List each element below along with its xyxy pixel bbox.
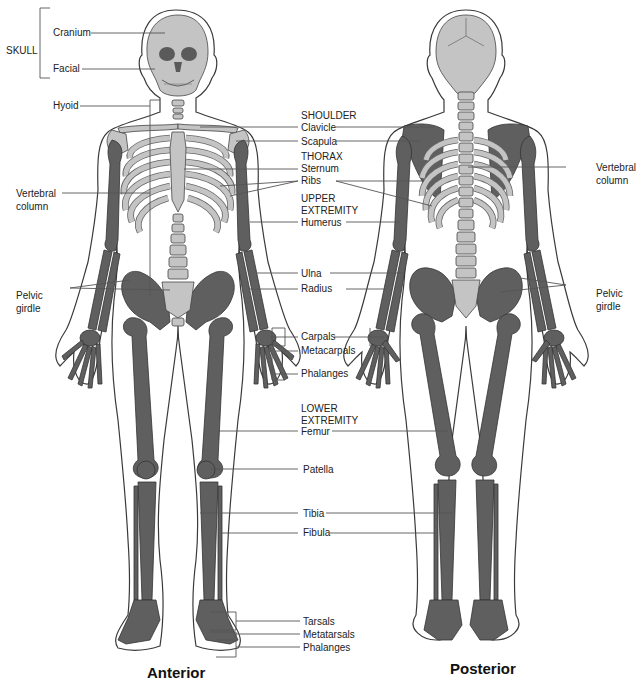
posterior-right-hand	[532, 330, 576, 388]
label-upper-extremity-line2: EXTREMITY	[301, 205, 358, 217]
posterior-right-foot	[470, 600, 508, 640]
label-fibula: Fibula	[303, 527, 330, 539]
anterior-left-tibia	[138, 482, 156, 600]
label-shoulder-group: SHOULDER	[301, 110, 357, 122]
label-upper-extremity-line1: UPPER	[301, 193, 335, 205]
posterior-vertebral-column	[456, 132, 476, 278]
label-vertebral-column-left-line2: column	[16, 201, 48, 213]
anterior-sternum	[170, 132, 186, 212]
anterior-right-foot	[196, 600, 238, 644]
posterior-right-hip-bone	[476, 268, 522, 322]
anterior-right-tibia	[200, 482, 218, 600]
label-clavicle: Clavicle	[301, 122, 336, 134]
anterior-left-hand	[62, 330, 102, 388]
label-sternum: Sternum	[301, 163, 339, 175]
anterior-right-patella	[197, 461, 215, 479]
pubic-symphysis	[172, 318, 184, 326]
label-scapula: Scapula	[301, 136, 337, 148]
posterior-left-hip-bone	[410, 268, 456, 322]
posterior-left-humerus	[393, 136, 412, 251]
posterior-left-femur	[412, 314, 460, 476]
left-orbit	[159, 47, 175, 61]
anterior-left-patella	[137, 461, 155, 479]
anterior-right-fibula	[218, 486, 222, 600]
label-pelvic-girdle-right-line2: girdle	[596, 301, 620, 313]
label-foot-phalanges: Phalanges	[303, 642, 350, 654]
posterior-right-humerus	[520, 136, 539, 251]
label-tibia: Tibia	[303, 508, 324, 520]
label-lower-extremity-line1: LOWER	[301, 403, 338, 415]
posterior-left-foot	[424, 600, 462, 640]
posterior-right-femur	[472, 314, 520, 476]
anterior-left-femur	[123, 318, 158, 478]
label-pelvic-girdle-left-line1: Pelvic	[16, 290, 43, 302]
label-vertebral-column-left-line1: Vertebral	[16, 188, 56, 200]
label-vertebral-column-right-line2: column	[596, 175, 628, 187]
anterior-left-clavicle	[118, 124, 178, 133]
label-carpals: Carpals	[301, 331, 335, 343]
label-metacarpals: Metacarpals	[301, 345, 355, 357]
label-hyoid: Hyoid	[53, 100, 79, 112]
label-pelvic-girdle-left-line2: girdle	[16, 303, 40, 315]
label-cranium: Cranium	[53, 27, 91, 39]
posterior-cervical-spine	[458, 92, 474, 130]
anterior-left-humerus	[105, 140, 122, 251]
label-patella: Patella	[303, 464, 334, 476]
label-ulna: Ulna	[301, 268, 322, 280]
anterior-left-fibula	[134, 486, 138, 600]
label-pelvic-girdle-right-line1: Pelvic	[596, 288, 623, 300]
anterior-hyoid	[172, 100, 184, 106]
posterior-left-hand	[356, 330, 400, 388]
label-femur: Femur	[301, 426, 330, 438]
label-thorax-group: THORAX	[301, 151, 343, 163]
anterior-right-hand	[254, 330, 294, 388]
posterior-sacrum	[452, 280, 480, 318]
anterior-left-foot	[118, 600, 160, 644]
skeletal-system-diagram: .skin { fill: none; stroke: #3a3a3a; str…	[0, 0, 636, 685]
caption-anterior: Anterior	[147, 664, 205, 681]
label-metatarsals: Metatarsals	[303, 629, 355, 641]
anterior-right-femur	[198, 318, 233, 478]
label-hand-phalanges: Phalanges	[301, 368, 348, 380]
caption-posterior: Posterior	[450, 660, 516, 677]
anterior-right-humerus	[234, 140, 251, 251]
label-humerus: Humerus	[301, 217, 342, 229]
label-skull-group: SKULL	[6, 45, 38, 57]
label-tarsals: Tarsals	[303, 616, 335, 628]
anterior-right-clavicle	[178, 124, 238, 133]
label-facial: Facial	[53, 63, 80, 75]
posterior-figure	[344, 10, 589, 640]
right-orbit	[181, 47, 197, 61]
label-ribs: Ribs	[301, 175, 321, 187]
anterior-vertebral-column	[168, 214, 188, 279]
label-radius: Radius	[301, 283, 332, 295]
label-vertebral-column-right-line1: Vertebral	[596, 162, 636, 174]
